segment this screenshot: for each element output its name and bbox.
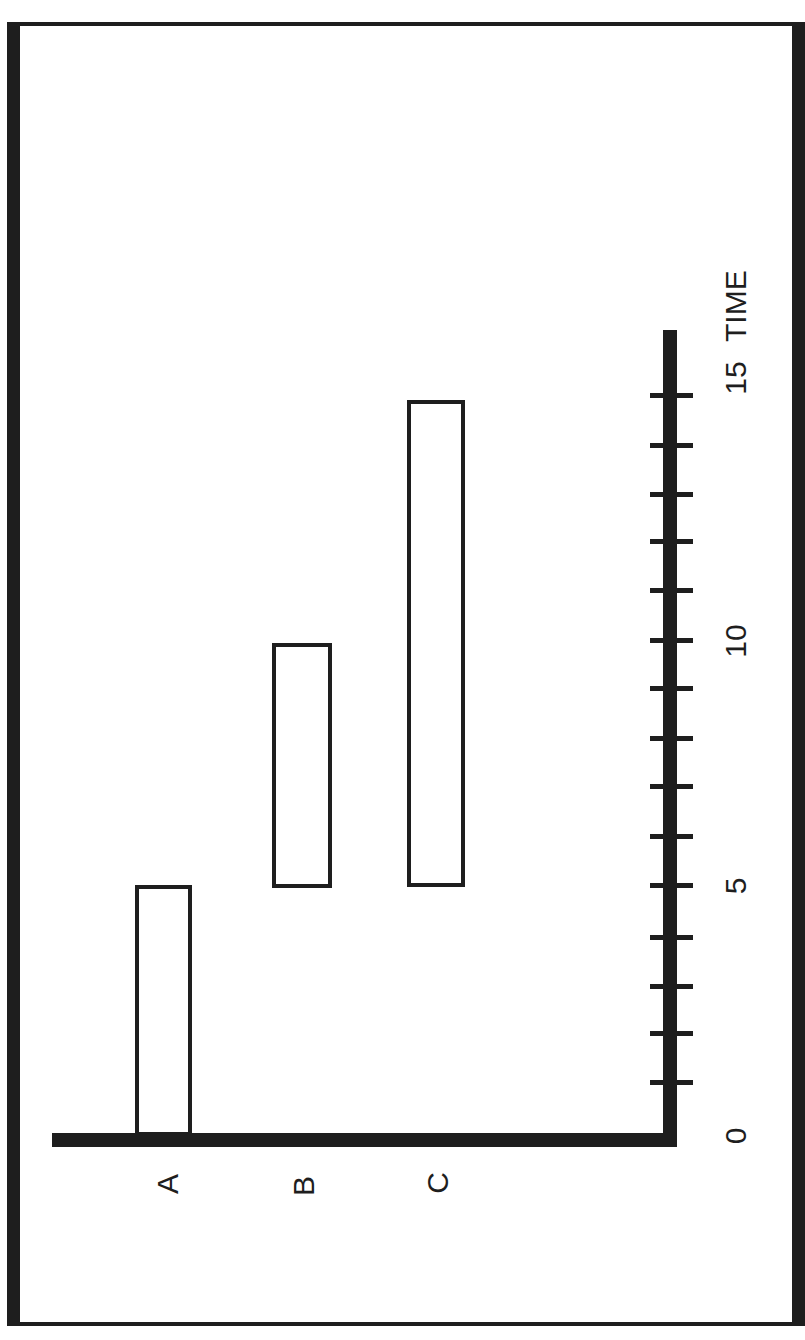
category-label-b: B <box>287 1176 320 1196</box>
tick-label-5: 5 <box>719 878 752 895</box>
tick-label-0: 0 <box>719 1128 752 1145</box>
tick-label-15: 15 <box>719 361 752 394</box>
axis-title-time: TIME <box>719 270 752 342</box>
bar-a <box>137 887 190 1134</box>
tick-label-10: 10 <box>719 624 752 657</box>
category-label-a: A <box>151 1174 184 1194</box>
category-label-c: C <box>421 1172 454 1194</box>
bar-c <box>409 402 463 885</box>
bar-b <box>274 645 330 886</box>
